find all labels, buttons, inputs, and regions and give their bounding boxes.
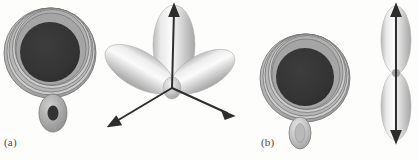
figure-canvas xyxy=(0,0,419,160)
pz-orbital-dumbbell xyxy=(381,5,411,142)
s-orbital-sphere-a xyxy=(4,8,96,132)
s-orbital-sphere-b xyxy=(260,34,350,149)
axis-arrow-x xyxy=(115,88,172,122)
satellite-lobe-b xyxy=(289,117,311,149)
orbital-figure: (a) (b) xyxy=(0,0,419,160)
arrowhead-dumbbell-bottom xyxy=(392,131,401,142)
panel-label-a: (a) xyxy=(4,136,17,148)
p-orbital-trilobe xyxy=(97,5,242,126)
satellite-lobe-a xyxy=(39,94,67,132)
panel-label-b: (b) xyxy=(261,136,274,148)
sphere-core-a xyxy=(20,22,80,82)
sphere-core-b xyxy=(276,48,334,106)
arrowhead-x xyxy=(109,117,121,126)
